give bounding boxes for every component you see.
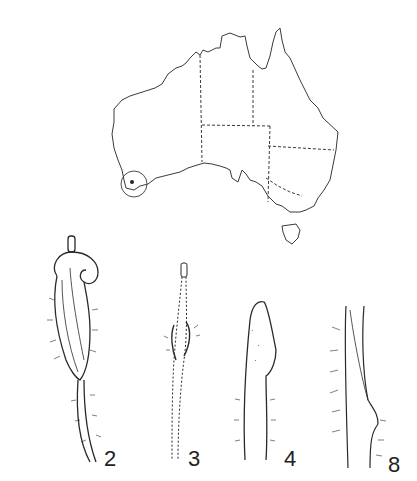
panel-4-label: 4 <box>284 446 296 471</box>
panel-3-drawing <box>164 263 200 460</box>
state-borders <box>200 55 334 202</box>
mainland-coastline <box>112 28 338 212</box>
panel-4-drawing <box>234 302 276 460</box>
tasmania <box>282 224 300 244</box>
botanical-figure: 2 3 4 8 <box>0 0 417 481</box>
locality-dot <box>130 180 134 184</box>
australia-distribution-map <box>112 28 338 244</box>
panel-2-label: 2 <box>104 446 116 471</box>
panel-3-label: 3 <box>188 446 200 471</box>
panel-2-drawing <box>47 236 101 462</box>
panel-8-label: 8 <box>388 452 400 477</box>
panel-8-drawing <box>330 306 386 468</box>
